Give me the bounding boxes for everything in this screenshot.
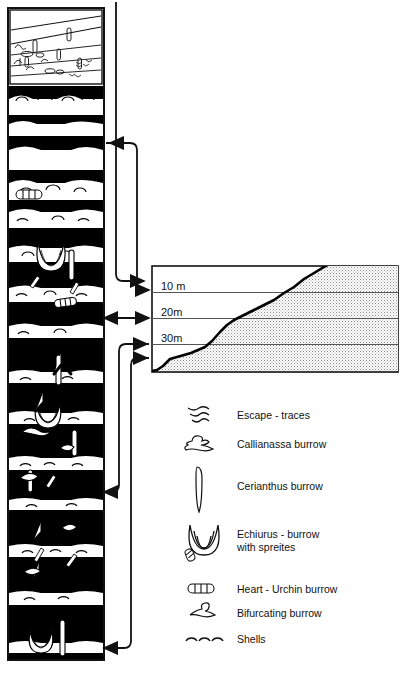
figure-root: 10 m 20m 30m Escape - traces Callianassa xyxy=(0,0,400,673)
cross-section-panel xyxy=(10,10,102,84)
depth-label-20m: 20m xyxy=(161,306,182,318)
legend-label-echiurus: Echiurus - burrow xyxy=(237,528,320,540)
depth-label-30m: 30m xyxy=(161,332,182,344)
legend-label-heart-urchin: Heart - Urchin burrow xyxy=(237,583,338,595)
core-log-column xyxy=(8,8,104,660)
legend-label-shells: Shells xyxy=(237,633,266,645)
legend-label-bifurcating: Bifurcating burrow xyxy=(237,607,322,619)
legend-label-escape-traces: Escape - traces xyxy=(237,409,310,421)
legend-label-echiurus-line2: with spreites xyxy=(236,541,295,553)
figure-canvas: 10 m 20m 30m Escape - traces Callianassa xyxy=(0,0,400,673)
depth-label-10m: 10 m xyxy=(161,280,185,292)
legend-label-callianassa: Callianassa burrow xyxy=(237,438,327,450)
legend-label-cerianthus: Cerianthus burrow xyxy=(237,480,323,492)
